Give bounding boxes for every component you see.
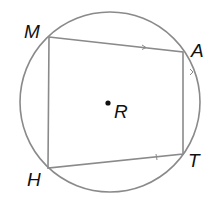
- label-T: T: [188, 150, 201, 171]
- label-H: H: [27, 169, 41, 190]
- label-M: M: [24, 21, 40, 42]
- label-R: R: [114, 101, 128, 122]
- center-point: [105, 100, 110, 105]
- arrow-mark-AT: [190, 69, 193, 75]
- label-A: A: [190, 40, 204, 61]
- diagram-canvas: M A T H R: [0, 0, 221, 203]
- tick-mark-HT: [156, 154, 157, 160]
